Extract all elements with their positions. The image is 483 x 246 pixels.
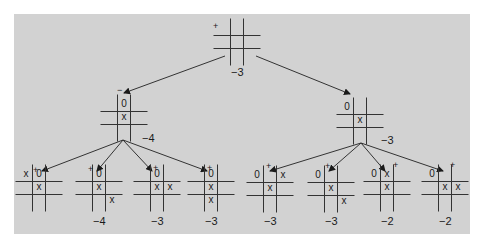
leaf-2-evaluation-value: −4 (93, 216, 106, 227)
leaf-7-cell-1-x-mark: x (381, 169, 394, 179)
level1-left-evaluation-value: −4 (142, 133, 155, 144)
leaf-5-evaluation-value: −3 (264, 216, 277, 227)
leaf-4-cell-7-x-mark: x (205, 195, 218, 205)
leaf-6-cell-0-o-mark: 0 (312, 170, 325, 180)
leaf-4-cell-4-x-mark: x (205, 182, 218, 192)
edge-r-leaf6 (329, 143, 361, 171)
edge-l-leaf1 (42, 140, 123, 171)
leaf-5-cell-4-x-mark: x (264, 183, 277, 193)
leaf-3-cell-4-x-mark: x (151, 182, 164, 192)
tree-edges (0, 0, 483, 246)
level1-left-cell-1-o-mark: 0 (118, 99, 131, 109)
level1-right-player-sign: − (344, 88, 349, 97)
edge-l-leaf3 (123, 140, 152, 171)
leaf-6-cell-8-x-mark: x (338, 196, 351, 206)
leaf-7-cell-4-x-mark: x (381, 182, 394, 192)
leaf-2-cell-1-o-mark: 0 (93, 169, 106, 179)
edge-root-left (124, 56, 225, 93)
leaf-2-cell-4-x-mark: x (93, 182, 106, 192)
leaf-2-cell-8-x-mark: x (106, 195, 119, 205)
leaf-3-evaluation-value: −3 (151, 216, 164, 227)
leaf-8-player-sign: + (450, 161, 455, 170)
root-evaluation-value: −3 (231, 67, 244, 78)
edge-r-leaf5 (270, 143, 361, 171)
level1-right-cell-4-x-mark: x (354, 115, 367, 125)
level1-left-cell-4-x-mark: x (118, 112, 131, 122)
leaf-7-cell-0-o-mark: 0 (368, 169, 381, 179)
root-board-grid (214, 19, 261, 66)
leaf-6-evaluation-value: −3 (325, 216, 338, 227)
leaf-7-player-sign: + (393, 161, 398, 170)
edge-root-right (256, 56, 350, 94)
leaf-3-player-sign: + (153, 164, 158, 173)
level1-left-player-sign: − (117, 86, 122, 95)
leaf-2-player-sign: + (88, 165, 93, 174)
leaf-1-cell-4-x-mark: x (33, 182, 46, 192)
leaf-3-cell-5-x-mark: x (164, 182, 177, 192)
level1-right-evaluation-value: −3 (381, 135, 394, 146)
leaf-1-player-sign: + (33, 166, 38, 175)
leaf-4-player-sign: + (207, 164, 212, 173)
leaf-6-cell-4-x-mark: x (325, 183, 338, 193)
leaf-4-evaluation-value: −3 (205, 216, 218, 227)
level1-right-cell-0-o-mark: 0 (341, 102, 354, 112)
leaf-5-cell-2-x-mark: x (277, 170, 290, 180)
leaf-5-player-sign: + (266, 162, 271, 171)
leaf-5-cell-0-o-mark: 0 (251, 170, 264, 180)
leaf-8-cell-4-x-mark: x (439, 182, 452, 192)
leaf-8-cell-5-x-mark: x (452, 182, 465, 192)
leaf-7-evaluation-value: −2 (381, 216, 394, 227)
edge-l-leaf4 (123, 140, 207, 171)
leaf-1-cell-0-x-mark: x (20, 169, 33, 179)
leaf-8-cell-0-o-mark: 0 (426, 169, 439, 179)
leaf-6-player-sign: + (325, 162, 330, 171)
root-player-sign: + (213, 22, 218, 31)
leaf-8-evaluation-value: −2 (439, 216, 452, 227)
